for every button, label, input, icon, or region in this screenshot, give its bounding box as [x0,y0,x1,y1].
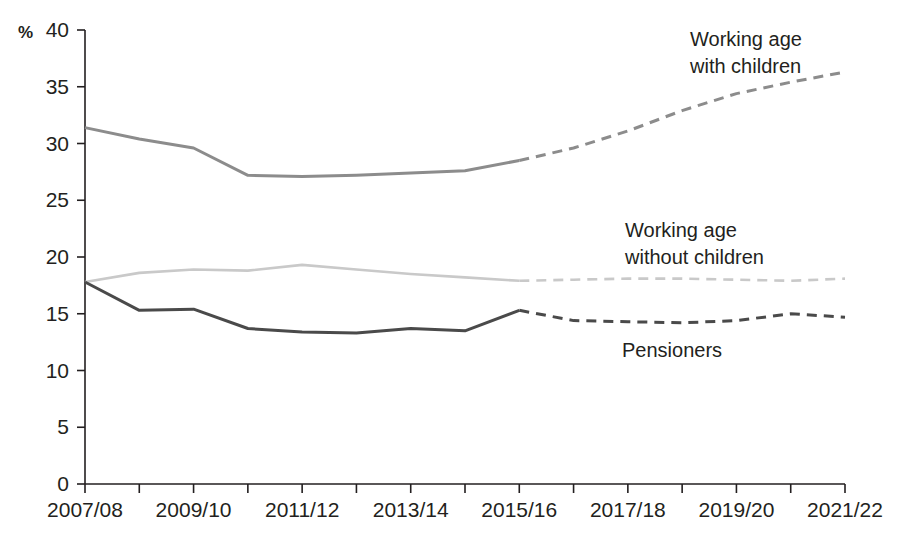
x-axis-tick-label: 2011/12 [265,498,339,521]
y-axis-tick-label: 40 [46,18,69,41]
line-chart: 0510152025303540 2007/082009/102011/1220… [0,0,898,545]
y-axis-tick-label: 20 [46,245,69,268]
y-axis-tick-label: 35 [46,75,69,98]
x-axis-tick-label: 2021/22 [807,498,883,521]
x-axis-tick-label: 2013/14 [373,498,449,521]
y-axis-tick-label: 5 [57,415,69,438]
annotation-working-age-with-children: with children [689,55,801,77]
y-axis-tick-label: 0 [57,472,69,495]
y-axis-tick-label: 10 [46,359,69,382]
series-line-dashed-2 [519,310,845,323]
x-axis-tick-label: 2019/20 [698,498,774,521]
series-line-dashed-1 [519,279,845,281]
series-line-solid-1 [85,265,519,282]
y-axis-ticks: 0510152025303540 [46,18,85,495]
x-axis-ticks: 2007/082009/102011/122013/142015/162017/… [47,484,883,521]
y-axis-tick-label: 25 [46,188,69,211]
x-axis-tick-label: 2007/08 [47,498,123,521]
x-axis-tick-label: 2009/10 [156,498,232,521]
annotation-working-age-without-children: Working age [625,219,737,241]
y-axis-tick-label: 30 [46,132,69,155]
series-annotations: Working agewith childrenWorking agewitho… [622,28,802,361]
annotation-working-age-with-children: Working age [690,28,802,50]
x-axis-tick-label: 2015/16 [481,498,557,521]
x-axis-tick-label: 2017/18 [590,498,666,521]
annotation-working-age-without-children: without children [624,246,764,268]
series-lines [85,72,845,333]
y-axis-tick-label: 15 [46,302,69,325]
series-line-dashed-0 [519,72,845,161]
chart-container: 0510152025303540 2007/082009/102011/1220… [0,0,898,545]
series-line-solid-2 [85,282,519,333]
y-axis-unit-label: % [18,23,33,42]
annotation-pensioners: Pensioners [622,339,722,361]
series-line-solid-0 [85,128,519,177]
